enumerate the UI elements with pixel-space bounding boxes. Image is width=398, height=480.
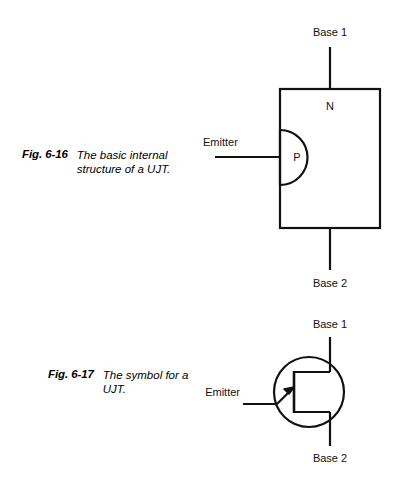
caption-line: The basic internal <box>77 148 171 162</box>
caption-line: structure of a UJT. <box>77 162 171 176</box>
p-region-label: P <box>293 151 300 163</box>
symbol-base-1-label: Base 1 <box>313 318 347 330</box>
caption-line: UJT. <box>103 382 189 396</box>
p-type-region-arc <box>280 130 308 185</box>
caption-line: The symbol for a <box>103 368 189 382</box>
figure-6-16-caption-block: Fig. 6-16 The basic internal structure o… <box>22 148 202 176</box>
n-type-bar-rect <box>280 89 380 228</box>
figure-6-17-diagram: Base 1 Emitter Base 2 <box>205 318 347 464</box>
symbol-enclosure-circle <box>274 357 344 427</box>
emitter-label: Emitter <box>203 136 238 148</box>
n-region-label: N <box>326 100 334 112</box>
symbol-base-2-label: Base 2 <box>313 452 347 464</box>
figure-6-16-caption-text: The basic internal structure of a UJT. <box>77 148 171 176</box>
base-2-label: Base 2 <box>313 277 347 289</box>
figure-6-16-number: Fig. 6-16 <box>22 148 68 160</box>
base-1-label: Base 1 <box>313 26 347 38</box>
figure-6-17-caption-text: The symbol for a UJT. <box>103 368 189 396</box>
symbol-emitter-diagonal-line <box>277 388 293 404</box>
figure-6-17-number: Fig. 6-17 <box>48 368 94 380</box>
figures-diagram-canvas: Base 1 N P Emitter Base 2 Base 1 <box>0 0 398 480</box>
figure-6-16-diagram: Base 1 N P Emitter Base 2 <box>203 26 380 289</box>
figure-page: Fig. 6-16 The basic internal structure o… <box>0 0 398 480</box>
figure-6-17-caption-block: Fig. 6-17 The symbol for a UJT. <box>48 368 223 396</box>
symbol-emitter-arrowhead <box>284 387 294 394</box>
